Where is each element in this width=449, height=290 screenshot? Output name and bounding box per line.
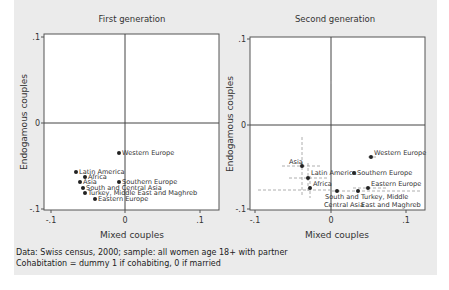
x-axis-label: Mixed couples [305, 230, 369, 240]
point-label: Western Europe [122, 149, 174, 157]
chart-canvas: First generation .1 0 -.1 -.1 0 .1 Mixed… [0, 0, 449, 290]
y-tick-label: -.1 [235, 205, 246, 214]
x-tick-label: 0 [122, 216, 127, 225]
panel-second-generation: Second generation .1 0 -.1 -.1 0 .1 Mixe… [225, 14, 426, 240]
point-eastern-europe [366, 186, 370, 190]
point-label: Latin America [311, 169, 357, 177]
point-label: Eastern Europe [98, 195, 148, 203]
x-tick-label: .1 [196, 216, 204, 225]
x-axis-label: Mixed couples [100, 230, 164, 240]
point-label: South and [325, 193, 359, 201]
point-eastern-europe [93, 197, 97, 201]
point-label: Central Asia [324, 201, 364, 209]
point-label: East and Maghreb [361, 201, 421, 209]
point-label: Asia [289, 158, 303, 166]
x-tick-label: -.1 [250, 216, 261, 225]
x-tick-label: .1 [402, 216, 410, 225]
point-western-europe [369, 155, 373, 159]
point-label: Africa [313, 180, 332, 188]
y-tick-label: .1 [238, 35, 246, 44]
point-label: Turkey, Middle [360, 193, 408, 201]
y-axis-label: Endogamous couples [225, 76, 235, 172]
point-label: Western Europe [374, 149, 426, 157]
data-source-note: Data: Swiss census, 2000; sample: all wo… [16, 248, 288, 257]
point-label: Eastern Europe [371, 180, 421, 188]
point-latin-america [74, 170, 78, 174]
point-asia [78, 180, 82, 184]
panel-title-first-generation: First generation [99, 14, 166, 24]
panel-first-generation: First generation .1 0 -.1 -.1 0 .1 Mixed… [19, 14, 219, 240]
panel-title-second-generation: Second generation [295, 14, 375, 24]
point-africa [308, 186, 312, 190]
y-tick-label: .1 [32, 33, 40, 42]
y-axis-label: Endogamous couples [19, 74, 29, 170]
y-tick-label: 0 [35, 119, 40, 128]
point-latin-america [306, 176, 310, 180]
point-western-europe [117, 151, 121, 155]
x-tick-label: 0 [328, 216, 333, 225]
cohabitation-note: Cohabitation = dummy 1 if cohabiting, 0 … [16, 259, 221, 268]
y-tick-label: -.1 [29, 205, 40, 214]
x-tick-label: -.1 [46, 216, 57, 225]
point-south-central-asia [81, 186, 85, 190]
y-tick-label: 0 [241, 121, 246, 130]
point-label: Southern Europe [357, 169, 412, 177]
